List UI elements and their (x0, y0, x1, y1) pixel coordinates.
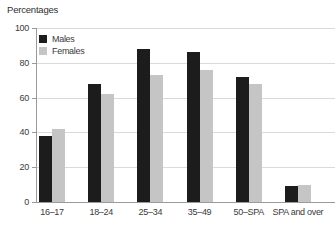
bar-group: 35–49 (187, 28, 213, 202)
bar-males-SPA and over (285, 186, 298, 202)
x-axis-tick-label: SPA and over (273, 207, 324, 217)
males-swatch (39, 35, 47, 43)
y-axis-tick-label: 60 (0, 93, 29, 103)
legend-item-females: Females (39, 46, 84, 55)
bar-females-25–34 (150, 75, 163, 202)
y-axis-title: Percentages (7, 4, 58, 15)
bar-group: 50–SPA (236, 28, 262, 202)
y-axis-tick-label: 20 (0, 162, 29, 172)
y-axis-tick-label: 100 (0, 23, 29, 33)
bar-group: SPA and over (285, 28, 311, 202)
legend-item-males: Males (39, 34, 84, 43)
chart-page: { "chart_data": { "type": "bar", "ylabel… (0, 0, 335, 227)
bar-group: 25–34 (137, 28, 163, 202)
x-axis-tick-label: 50–SPA (233, 207, 264, 217)
x-axis-tick-label: 25–34 (139, 207, 163, 217)
bar-males-25–34 (137, 49, 150, 202)
y-axis-tick-label: 40 (0, 127, 29, 137)
bar-males-50–SPA (236, 77, 249, 202)
x-axis-tick-label: 18–24 (89, 207, 113, 217)
bar-group: 18–24 (88, 28, 114, 202)
x-axis-tick-label: 16–17 (40, 207, 64, 217)
bar-females-16–17 (52, 129, 65, 202)
plot-area: 16–1718–2425–3435–4950–SPASPA and over M… (36, 28, 335, 203)
bar-males-16–17 (39, 136, 52, 202)
x-axis-tick-label: 35–49 (188, 207, 212, 217)
bar-females-50–SPA (249, 84, 262, 202)
bar-males-35–49 (187, 52, 200, 202)
y-axis-tick-label: 0 (0, 197, 29, 207)
females-swatch (39, 47, 47, 55)
bar-females-35–49 (200, 70, 213, 202)
legend-label-males: Males (52, 34, 75, 44)
legend-label-females: Females (52, 46, 84, 56)
bar-males-18–24 (88, 84, 101, 202)
y-axis-tick-label: 80 (0, 58, 29, 68)
legend: Males Females (39, 34, 84, 55)
bar-females-SPA and over (298, 185, 311, 202)
bar-females-18–24 (101, 94, 114, 202)
